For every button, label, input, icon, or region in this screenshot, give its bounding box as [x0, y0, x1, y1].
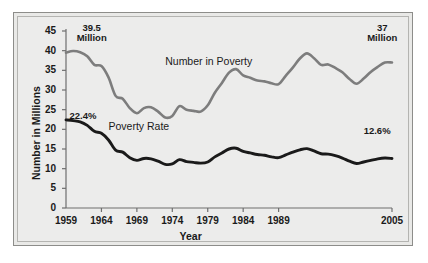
y-tick-label: 0 — [30, 202, 56, 213]
series-label-number-in-poverty: Number in Poverty — [165, 55, 252, 67]
y-tick-label: 35 — [30, 64, 56, 75]
y-tick-label: 40 — [30, 45, 56, 56]
series-label-poverty-rate: Poverty Rate — [109, 120, 170, 132]
y-tick-label: 30 — [30, 84, 56, 95]
chart-figure: Number in Millions Year 4540353025201510… — [0, 0, 428, 263]
y-tick-label: 25 — [30, 104, 56, 115]
x-tick-label: 2005 — [369, 215, 415, 226]
start-rate-annotation: 22.4% — [70, 110, 97, 121]
x-axis-title: Year — [180, 230, 202, 242]
end-number-annotation: 37Million — [367, 23, 397, 44]
plot-area: Number in Millions Year 4540353025201510… — [0, 0, 428, 263]
series-group — [66, 51, 392, 165]
y-tick-label: 15 — [30, 143, 56, 154]
y-tick-label: 5 — [30, 182, 56, 193]
y-tick-label: 20 — [30, 123, 56, 134]
end-rate-annotation: 12.6% — [364, 125, 391, 136]
start-number-annotation: 39.5Million — [77, 23, 107, 44]
annotation-unit: Million — [367, 33, 397, 44]
annotation-unit: Million — [77, 33, 107, 44]
y-tick-label: 45 — [30, 25, 56, 36]
y-tick-label: 10 — [30, 163, 56, 174]
x-tick-label: 1989 — [256, 215, 302, 226]
